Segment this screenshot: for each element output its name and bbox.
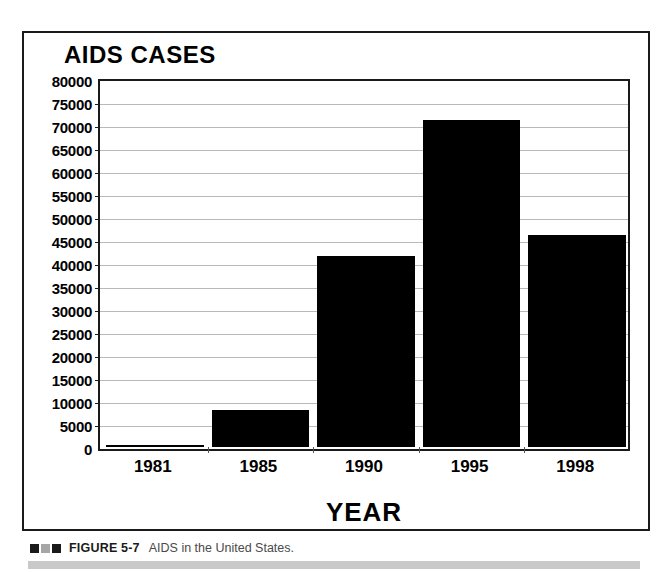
y-tick-mark bbox=[95, 173, 100, 174]
caption-marker-icon bbox=[30, 544, 61, 553]
y-tick-mark bbox=[95, 127, 100, 128]
bar-1985 bbox=[212, 410, 310, 447]
y-tick-label: 10000 bbox=[52, 395, 92, 412]
figure-caption-text: AIDS in the United States. bbox=[149, 541, 294, 555]
y-tick-label: 45000 bbox=[52, 234, 92, 251]
x-tick-label: 1995 bbox=[451, 457, 489, 477]
y-tick-label: 20000 bbox=[52, 349, 92, 366]
caption-square-icon bbox=[30, 544, 39, 553]
x-tick-mark bbox=[524, 447, 525, 453]
y-tick-label: 5000 bbox=[60, 418, 92, 435]
bars-layer bbox=[102, 83, 626, 447]
x-tick-mark bbox=[419, 447, 420, 453]
y-tick-mark bbox=[95, 311, 100, 312]
x-tick-label: 1985 bbox=[239, 457, 277, 477]
x-tick-label: 1990 bbox=[345, 457, 383, 477]
bar-1995 bbox=[423, 120, 521, 447]
y-tick-label: 60000 bbox=[52, 165, 92, 182]
y-tick-mark bbox=[95, 426, 100, 427]
y-tick-label: 0 bbox=[84, 441, 92, 458]
x-tick-mark bbox=[313, 447, 314, 453]
caption-square-icon bbox=[41, 544, 50, 553]
bar-1998 bbox=[528, 235, 626, 447]
x-tick-label: 1998 bbox=[556, 457, 594, 477]
caption-square-icon bbox=[52, 544, 61, 553]
y-tick-label: 40000 bbox=[52, 257, 92, 274]
y-tick-label: 30000 bbox=[52, 303, 92, 320]
y-tick-label: 55000 bbox=[52, 188, 92, 205]
y-tick-mark bbox=[95, 150, 100, 151]
y-tick-label: 75000 bbox=[52, 96, 92, 113]
y-tick-label: 35000 bbox=[52, 280, 92, 297]
footer-band bbox=[28, 561, 640, 569]
plot-frame bbox=[98, 79, 630, 451]
x-tick-mark bbox=[208, 447, 209, 453]
y-tick-label: 25000 bbox=[52, 326, 92, 343]
y-tick-label: 70000 bbox=[52, 119, 92, 136]
y-tick-mark bbox=[95, 242, 100, 243]
y-tick-mark bbox=[95, 380, 100, 381]
bar-1990 bbox=[317, 256, 415, 447]
y-tick-mark bbox=[95, 288, 100, 289]
y-tick-label: 80000 bbox=[52, 73, 92, 90]
y-tick-label: 65000 bbox=[52, 142, 92, 159]
figure-frame: AIDS CASES 05000100001500020000250003000… bbox=[22, 31, 650, 531]
x-axis-title: YEAR bbox=[98, 497, 630, 528]
y-tick-mark bbox=[95, 334, 100, 335]
x-axis-tick-labels: 19811985199019951998 bbox=[98, 457, 630, 483]
figure-caption: FIGURE 5-7 AIDS in the United States. bbox=[30, 539, 294, 557]
y-tick-label: 50000 bbox=[52, 211, 92, 228]
plot-region: 0500010000150002000025000300003500040000… bbox=[98, 79, 630, 451]
y-tick-mark bbox=[95, 403, 100, 404]
y-tick-label: 15000 bbox=[52, 372, 92, 389]
y-axis-tick-labels: 0500010000150002000025000300003500040000… bbox=[26, 79, 92, 451]
y-tick-mark bbox=[95, 357, 100, 358]
figure-caption-label: FIGURE 5-7 bbox=[69, 541, 140, 555]
x-tick-label: 1981 bbox=[134, 457, 172, 477]
y-tick-mark bbox=[95, 265, 100, 266]
y-tick-mark bbox=[95, 104, 100, 105]
chart-title: AIDS CASES bbox=[64, 41, 216, 69]
bar-1981 bbox=[106, 445, 204, 447]
y-tick-mark bbox=[95, 196, 100, 197]
y-tick-mark bbox=[95, 219, 100, 220]
